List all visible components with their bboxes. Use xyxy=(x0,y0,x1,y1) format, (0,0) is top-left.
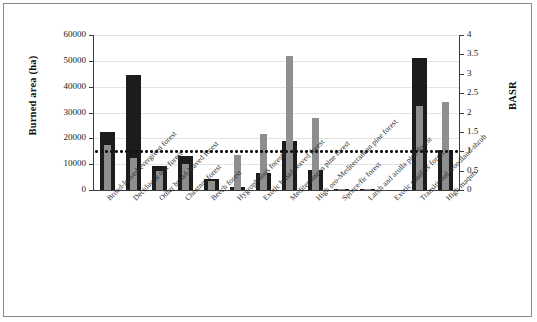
y-axis-left-tick-label: 0 xyxy=(40,185,86,194)
y-axis-left-tick-label: 50000 xyxy=(40,56,86,65)
y-axis-right-tick xyxy=(460,35,464,36)
bar-basr xyxy=(442,102,449,190)
basr-threshold-line xyxy=(94,150,459,153)
figure-frame: Burned area (ha) BASR 010000200003000040… xyxy=(3,3,532,317)
y-axis-left-tick xyxy=(89,61,93,62)
x-axis-line xyxy=(93,190,460,191)
y-axis-right-tick-label: 0.5 xyxy=(467,166,497,175)
y-axis-right-tick-label: 1.5 xyxy=(467,127,497,136)
bar-basr xyxy=(416,106,423,190)
bar-basr xyxy=(364,189,371,190)
y-axis-right-tick xyxy=(460,74,464,75)
y-axis-right-tick xyxy=(460,171,464,172)
bar-basr xyxy=(156,171,163,190)
y-axis-right-tick xyxy=(460,190,464,191)
bar-group xyxy=(329,35,355,190)
y-axis-right-title: BASR xyxy=(507,36,518,156)
y-axis-right-tick xyxy=(460,151,464,152)
bar-basr xyxy=(312,118,319,190)
y-axis-right-tick-label: 4 xyxy=(467,30,497,39)
bar-group xyxy=(120,35,146,190)
bar-basr xyxy=(208,181,215,190)
y-axis-left-tick-label: 20000 xyxy=(40,133,86,142)
bar-basr xyxy=(234,155,241,190)
y-axis-left-tick-label: 10000 xyxy=(40,159,86,168)
bar-basr xyxy=(338,189,345,190)
bar-group xyxy=(94,35,120,190)
bar-group xyxy=(250,35,276,190)
bar-basr xyxy=(182,164,189,190)
bar-group xyxy=(224,35,250,190)
plot-area xyxy=(94,35,459,190)
bar-basr xyxy=(130,158,137,190)
y-axis-right-tick xyxy=(460,113,464,114)
bar-basr xyxy=(260,134,267,190)
y-axis-left-tick xyxy=(89,138,93,139)
y-axis-right-tick-label: 2.5 xyxy=(467,88,497,97)
y-axis-left-tick xyxy=(89,164,93,165)
bar-group xyxy=(303,35,329,190)
bar-group xyxy=(355,35,381,190)
y-axis-right-tick-label: 3.5 xyxy=(467,49,497,58)
y-axis-right-tick-label: 0 xyxy=(467,185,497,194)
y-axis-right-tick xyxy=(460,132,464,133)
bar-group xyxy=(277,35,303,190)
y-axis-left-tick-label: 40000 xyxy=(40,82,86,91)
bar-group xyxy=(172,35,198,190)
y-axis-left-tick xyxy=(89,87,93,88)
y-axis-right-tick-label: 2 xyxy=(467,108,497,117)
bar-group xyxy=(381,35,407,190)
y-axis-right-tick xyxy=(460,93,464,94)
y-axis-right-tick-label: 3 xyxy=(467,69,497,78)
y-axis-left-tick xyxy=(89,190,93,191)
y-axis-left-tick-label: 30000 xyxy=(40,108,86,117)
y-axis-left-title: Burned area (ha) xyxy=(27,21,38,171)
y-axis-right-tick xyxy=(460,54,464,55)
bar-group xyxy=(198,35,224,190)
bar-group xyxy=(433,35,459,190)
y-axis-left-tick xyxy=(89,113,93,114)
y-axis-right-tick-label: 1 xyxy=(467,146,497,155)
y-axis-left-tick-label: 60000 xyxy=(40,30,86,39)
bar-group xyxy=(146,35,172,190)
bar-basr xyxy=(286,56,293,190)
bar-group xyxy=(407,35,433,190)
y-axis-left-tick xyxy=(89,35,93,36)
